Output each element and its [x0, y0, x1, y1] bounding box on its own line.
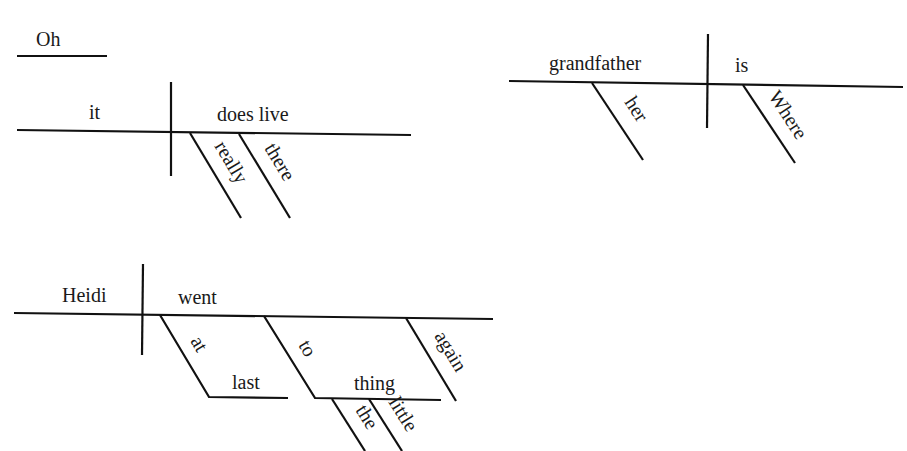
phrase1-object-last: last [232, 371, 260, 393]
clause-2: grandfather is her Where [509, 34, 903, 163]
clause3-subject: Heidi [62, 284, 107, 306]
clause3-baseline [14, 313, 493, 319]
phrase2-object-thing: thing [354, 372, 395, 395]
phrase1-lines [160, 315, 288, 398]
interjection-oh: Oh [17, 28, 107, 56]
phrase2-lines [264, 316, 441, 400]
clause2-baseline [509, 81, 903, 87]
clause1-baseline [17, 130, 411, 135]
clause1-subject: it [89, 101, 101, 123]
clause1-verb: does live [217, 103, 289, 125]
clause3-verb: went [178, 286, 217, 308]
sentence-diagram-canvas: Oh it does live really there grandfather… [0, 0, 907, 451]
phrase1-preposition-at: at [187, 332, 214, 356]
clause-3: Heidi went at last to thing the little a… [14, 264, 493, 451]
phrase2-modifier-the: the [352, 400, 384, 432]
clause2-subject: grandfather [549, 52, 642, 75]
phrase2-preposition-to: to [295, 336, 322, 361]
clause-1: it does live really there [17, 82, 411, 218]
clause3-subject-verb-divider [142, 264, 143, 355]
interjection-word: Oh [36, 28, 60, 50]
clause2-verb-modifier-where: Where [765, 86, 813, 143]
clause2-subject-verb-divider [707, 34, 708, 128]
clause2-verb: is [735, 54, 749, 76]
clause2-subject-modifier-her: her [621, 92, 654, 126]
